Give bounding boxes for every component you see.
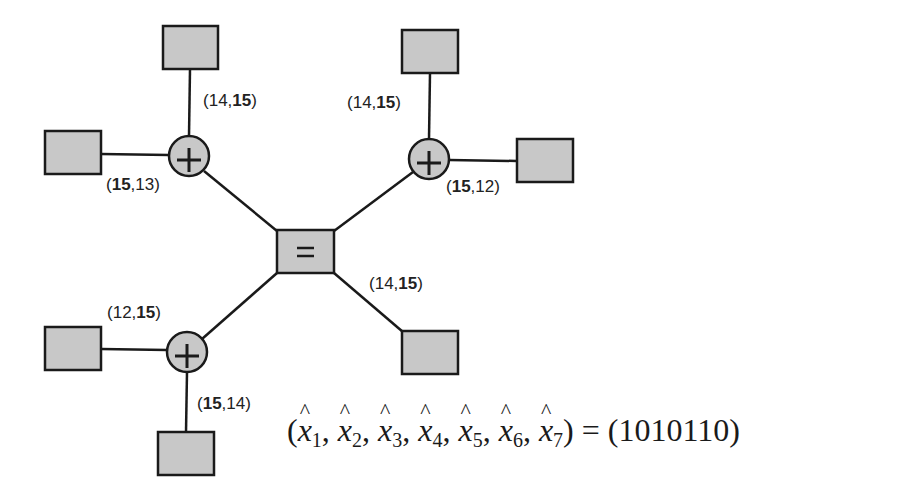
variable-node-c2-right [517, 139, 573, 182]
edge-c2-top [429, 73, 430, 139]
edge-label-c1-left: (15,13) [106, 175, 160, 195]
edge-c3-left [101, 349, 167, 350]
decoded-codeword-equation: (x1, x2, x3, x4, x5, x6, x7) = (1010110) [287, 412, 740, 452]
edge-c3-eq [202, 273, 277, 339]
edge-c1-left [101, 154, 169, 155]
edge-c1-eq [204, 171, 277, 231]
edge-label-c3-left: (12,15) [107, 303, 161, 323]
edge-label-eq-bottom-right: (14,15) [369, 274, 423, 294]
check-node-c3 [167, 332, 207, 372]
edge-label-c3-bottom: (15,14) [197, 394, 251, 414]
check-node-c1 [169, 136, 209, 176]
edge-c1-top [189, 69, 190, 136]
variable-node-c3-bottom [158, 432, 214, 475]
variable-node-c1-top [163, 26, 218, 69]
equality-node [277, 230, 334, 273]
variable-node-c1-left [45, 131, 101, 174]
edge-c2-eq [334, 172, 413, 231]
edge-label-c2-right: (15,12) [446, 177, 500, 197]
factor-graph-diagram: (14,15) (15,13) (14,15) (15,12) (14,15) … [0, 0, 914, 499]
variable-node-eq-bottom-right [402, 331, 458, 374]
edge-c2-right [449, 160, 517, 161]
check-node-c2 [409, 139, 449, 179]
variable-node-c2-top [402, 30, 458, 73]
edge-label-c1-top: (14,15) [203, 91, 257, 111]
edge-c3-bottom [186, 372, 187, 432]
edge-label-c2-top: (14,15) [347, 93, 401, 113]
variable-node-c3-left [45, 327, 101, 370]
